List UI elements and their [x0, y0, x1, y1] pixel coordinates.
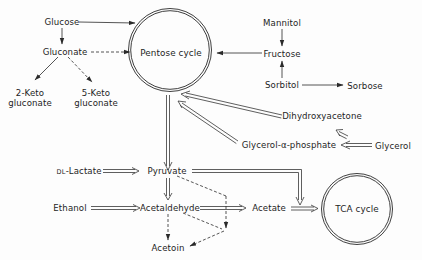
arrow-acetaldehyde-to-acetate [200, 205, 246, 212]
node-sorbitol: Sorbitol [265, 80, 299, 90]
tca-cycle-label: TCA cycle [335, 204, 378, 214]
node-dl-lactate: DL-Lactate [56, 166, 101, 177]
arrow-glycerol-to-dihydroxyacetone [336, 130, 348, 139]
node-mannitol: Mannitol [263, 18, 301, 28]
lactate-label: -Lactate [66, 166, 102, 176]
arrow-glycerolphosphate-to-pentose [178, 101, 238, 144]
arrow-pyruvate-to-tca [192, 170, 304, 206]
node-fructose: Fructose [263, 49, 300, 59]
node-2-keto-line2: gluconate [8, 98, 52, 108]
node-glycerol: Glycerol [375, 141, 411, 151]
arrow-junction-to-acetoin [190, 231, 224, 246]
node-acetate: Acetate [252, 203, 286, 213]
node-glycerol-alpha-phosphate: Glycerol-α-phosphate [242, 140, 336, 150]
arrow-dihydroxyacetone-to-pentose [181, 91, 282, 118]
pathway-connectors [0, 0, 422, 260]
arrow-gluconate-to-5keto [68, 57, 92, 82]
node-ethanol: Ethanol [53, 203, 86, 213]
arrow-pentose-to-pyruvate [164, 95, 172, 170]
arrow-gluconate-to-2keto [35, 57, 58, 80]
node-5-keto-line1: 5-Keto [74, 88, 118, 98]
node-5-keto-line2: gluconate [74, 98, 118, 108]
arrow-pyruvate-to-acetaldehyde [164, 178, 172, 200]
node-acetoin: Acetoin [152, 243, 185, 253]
arrow-ethanol-to-acetaldehyde [91, 205, 140, 212]
dl-prefix: DL [56, 168, 65, 176]
arrow-pyruvate-to-junction [177, 176, 226, 196]
node-2-keto-gluconate: 2-Keto gluconate [8, 88, 52, 108]
arrow-acetaldehyde-to-junction [183, 213, 222, 229]
node-glucose: Glucose [45, 17, 80, 27]
arrow-glucose-to-pentose [79, 22, 135, 23]
node-dihydroxyacetone: Dihydroxyacetone [282, 111, 362, 121]
node-gluconate: Gluconate [43, 47, 88, 57]
arrow-lactate-to-pyruvate [103, 168, 139, 175]
node-pyruvate: Pyruvate [147, 166, 186, 176]
node-5-keto-gluconate: 5-Keto gluconate [74, 88, 118, 108]
arrow-acetate-to-tca [291, 205, 318, 212]
node-2-keto-line1: 2-Keto [8, 88, 52, 98]
arrow-glycerol-to-glycerolphosphate [341, 141, 372, 149]
node-acetaldehyde: Acetaldehyde [140, 203, 200, 213]
node-sorbose: Sorbose [347, 81, 382, 91]
pentose-cycle-label: Pentose cycle [140, 48, 202, 58]
metabolic-pathway-diagram: Pentose cycle TCA cycle Glucose Gluconat… [0, 0, 422, 260]
